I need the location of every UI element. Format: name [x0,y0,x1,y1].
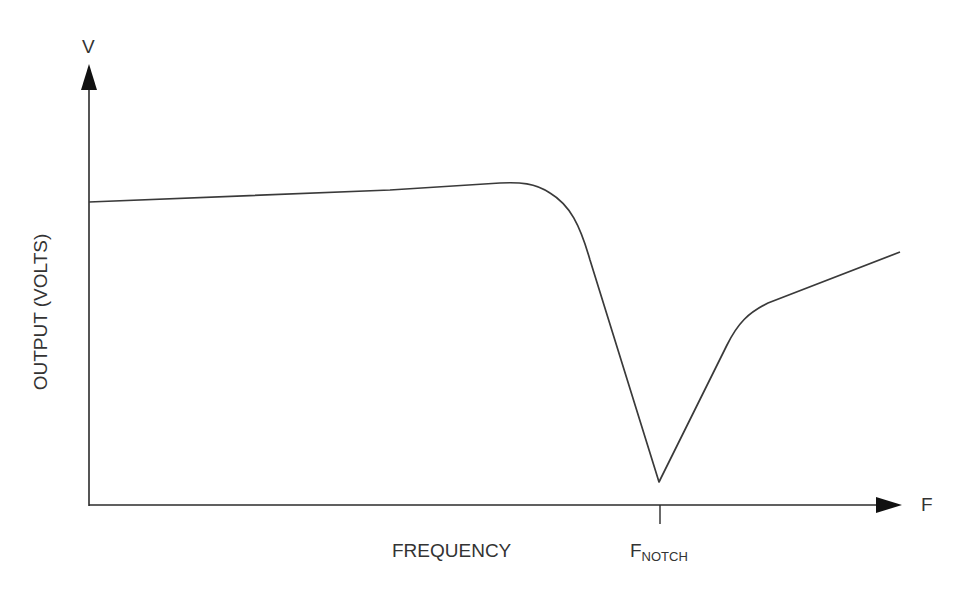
x-axis-arrow-icon [876,497,902,513]
notch-label: FNOTCH [630,540,688,562]
notch-label-main: F [630,540,642,561]
y-axis-arrow-icon [81,64,97,90]
chart-canvas [0,0,967,594]
x-axis-title: FREQUENCY [392,540,511,562]
x-axis-symbol: F [921,494,933,516]
y-axis-symbol: V [82,36,95,58]
y-axis-title: OUTPUT (VOLTS) [30,234,52,391]
response-curve [89,183,900,482]
notch-label-subscript: NOTCH [642,549,688,564]
